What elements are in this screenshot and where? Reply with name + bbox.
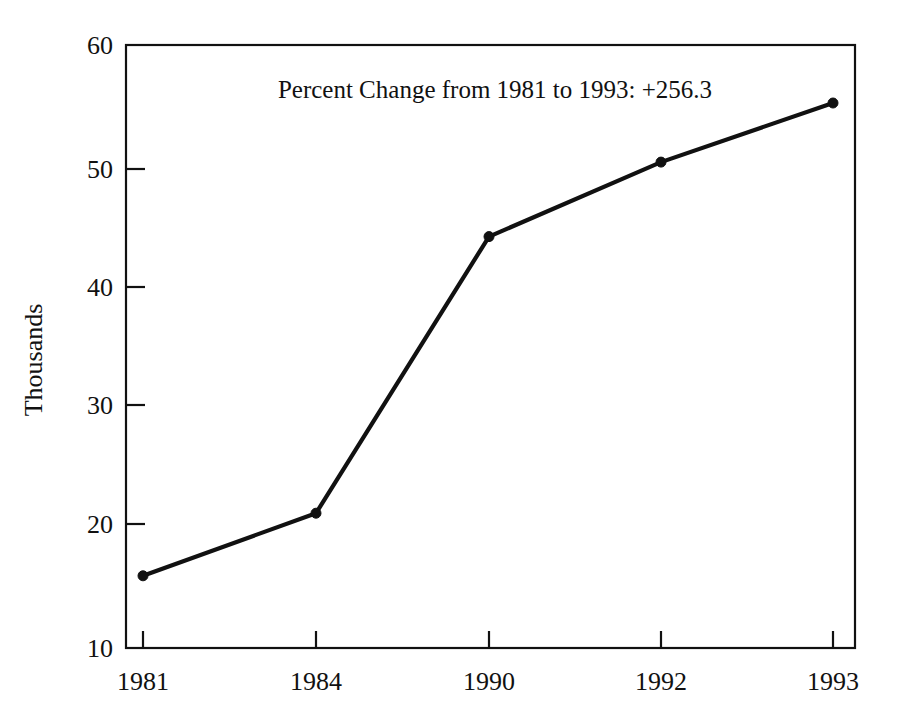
y-axis-title: Thousands: [19, 304, 48, 417]
x-axis-tick-labels: 1981 1984 1990 1992 1993: [117, 667, 859, 696]
series-line: [143, 103, 833, 576]
y-tick-label-50: 50: [87, 155, 113, 184]
chart-annotation: Percent Change from 1981 to 1993: +256.3: [278, 76, 712, 103]
data-point-1993: [828, 98, 838, 108]
data-point-1992: [656, 157, 666, 167]
data-point-1990: [484, 232, 494, 242]
x-axis-ticks: [143, 631, 833, 648]
x-tick-label-1981: 1981: [117, 667, 169, 696]
y-tick-label-40: 40: [87, 273, 113, 302]
data-point-1981: [138, 571, 148, 581]
y-tick-label-20: 20: [87, 510, 113, 539]
x-tick-label-1990: 1990: [463, 667, 515, 696]
data-point-1984: [311, 508, 321, 518]
y-axis-tick-labels: 60 50 40 30 20 10: [87, 31, 113, 663]
series-markers: [138, 98, 838, 581]
chart-figure: 60 50 40 30 20 10 1981 1984 1990 1992 19…: [0, 0, 905, 722]
data-series-thousands: [138, 98, 838, 581]
x-tick-label-1984: 1984: [290, 667, 342, 696]
y-tick-label-10: 10: [87, 634, 113, 663]
x-tick-label-1993: 1993: [807, 667, 859, 696]
x-tick-label-1992: 1992: [635, 667, 687, 696]
y-axis-ticks: [126, 169, 145, 524]
y-tick-label-60: 60: [87, 31, 113, 60]
plot-area-frame: [126, 45, 855, 648]
y-tick-label-30: 30: [87, 391, 113, 420]
line-chart: 60 50 40 30 20 10 1981 1984 1990 1992 19…: [0, 0, 905, 722]
